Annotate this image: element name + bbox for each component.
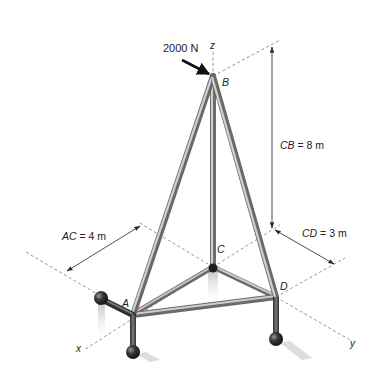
point-label-d: D [280, 280, 288, 292]
axis-label-y: y [349, 338, 356, 349]
inclined-members [132, 76, 276, 315]
dimension-label-cd: CD = 3 m [302, 227, 347, 239]
dimension-label-cb: CB = 8 m [280, 139, 324, 151]
load-arrow [182, 60, 209, 74]
axis-label-z: z [209, 40, 215, 51]
joint-c [209, 264, 218, 273]
tripod-diagram: 2000 N z x y B C D A CB = 8 m CD = 3 m A… [0, 0, 377, 382]
support-ball-a-left [94, 291, 108, 305]
dimension-value-cd: = 3 m [320, 227, 347, 239]
point-label-c: C [217, 243, 225, 255]
axis-lines [24, 40, 350, 350]
dimension-value-ac: = 4 m [80, 230, 107, 242]
point-label-a: A [121, 297, 129, 309]
axis-label-x: x [75, 343, 82, 354]
dimension-value-cb: = 8 m [298, 139, 325, 151]
support-d [269, 297, 283, 346]
b-extension-line [213, 40, 280, 76]
base-members [133, 266, 276, 315]
member-cb [212, 80, 213, 267]
dimension-arrows [67, 47, 334, 271]
support-ball-d [269, 332, 283, 346]
dimension-name-cd: CD [302, 227, 318, 239]
y-axis-line [276, 297, 350, 340]
dimension-name-cb: CB [280, 139, 295, 151]
support-ball-a-bottom [126, 345, 140, 359]
load-label: 2000 N [163, 42, 199, 54]
point-label-b: B [222, 76, 229, 88]
dimension-label-ac: AC = 4 m [61, 230, 106, 242]
dimension-name-ac: AC [61, 230, 77, 242]
